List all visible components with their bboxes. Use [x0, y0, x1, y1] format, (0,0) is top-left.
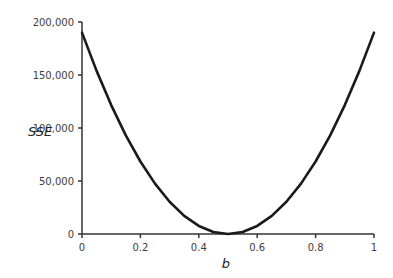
- y-axis-title: SSE: [28, 124, 53, 139]
- y-tick-label: 200,000: [33, 17, 74, 28]
- x-tick-label: 1: [371, 242, 377, 253]
- x-tick-label: 0.8: [308, 242, 324, 253]
- y-tick-label: 0: [68, 229, 74, 240]
- y-tick-label: 150,000: [33, 70, 74, 81]
- sse-chart: 050,000100,000150,000200,000 00.20.40.60…: [0, 0, 393, 278]
- x-tick-label: 0.6: [249, 242, 265, 253]
- x-tick-label: 0.2: [132, 242, 148, 253]
- x-axis: 00.20.40.60.81: [79, 234, 377, 253]
- y-tick-label: 50,000: [39, 176, 74, 187]
- x-tick-label: 0.4: [191, 242, 207, 253]
- x-axis-title: b: [222, 256, 230, 271]
- sse-curve: [82, 33, 374, 234]
- x-tick-label: 0: [79, 242, 85, 253]
